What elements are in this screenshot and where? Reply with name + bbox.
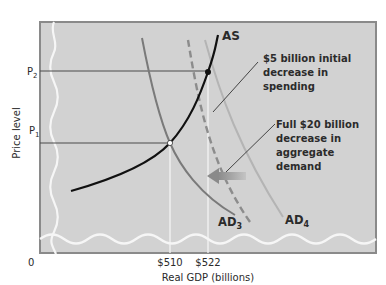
x-tick-522: $522 xyxy=(195,257,220,268)
as-label: AS xyxy=(222,29,240,43)
svg-text:decrease in: decrease in xyxy=(263,67,328,78)
x-tick-origin: 0 xyxy=(28,257,34,268)
aggregate-demand-supply-chart: AS AD3 AD4 $5 billion initial decrease i… xyxy=(0,0,386,285)
svg-text:decrease in: decrease in xyxy=(276,133,341,144)
equilibrium-final-open xyxy=(167,140,172,145)
y-tick-p1: P1 xyxy=(29,125,40,139)
x-axis-label: Real GDP (billions) xyxy=(162,272,254,283)
svg-text:spending: spending xyxy=(263,81,315,92)
equilibrium-initial-dot xyxy=(205,69,211,75)
svg-text:Full $20 billion: Full $20 billion xyxy=(276,119,359,130)
y-tick-p2: P2 xyxy=(27,66,38,80)
svg-text:aggregate: aggregate xyxy=(276,147,334,158)
svg-text:$5 billion initial: $5 billion initial xyxy=(263,53,351,64)
svg-text:demand: demand xyxy=(276,161,321,172)
x-tick-510: $510 xyxy=(157,257,182,268)
y-axis-label: Price level xyxy=(11,107,22,158)
